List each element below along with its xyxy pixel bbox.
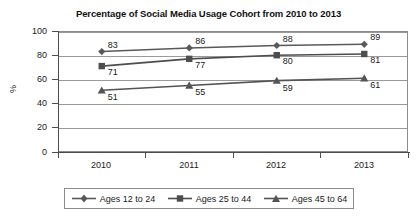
x-tick-4 xyxy=(408,152,409,158)
y-tick-80 xyxy=(52,55,58,56)
data-label: 88 xyxy=(283,34,293,44)
legend-item-ages-25-to-44[interactable]: Ages 25 to 44 xyxy=(167,193,252,204)
x-tick-label-2012: 2012 xyxy=(246,160,306,170)
square-marker-icon xyxy=(167,193,193,204)
y-tick-label-40: 40 xyxy=(7,98,47,108)
y-tick-label-0: 0 xyxy=(7,147,47,157)
data-label: 83 xyxy=(108,40,118,50)
diamond-marker-icon xyxy=(71,193,97,204)
y-tick-40 xyxy=(52,103,58,104)
gridline-60 xyxy=(59,80,407,81)
y-axis-title: % xyxy=(8,85,18,93)
data-label: 51 xyxy=(108,92,118,102)
data-label: 89 xyxy=(370,32,380,42)
gridline-80 xyxy=(59,56,407,57)
data-label: 86 xyxy=(195,36,205,46)
y-axis-line xyxy=(58,31,59,153)
data-label: 71 xyxy=(108,67,118,77)
y-tick-label-100: 100 xyxy=(7,26,47,36)
y-tick-label-60: 60 xyxy=(7,74,47,84)
x-axis-line xyxy=(52,152,410,153)
x-tick-1 xyxy=(145,152,146,158)
data-label: 61 xyxy=(370,80,380,90)
y-tick-100 xyxy=(52,31,58,32)
y-tick-label-80: 80 xyxy=(7,50,47,60)
x-tick-3 xyxy=(320,152,321,158)
x-tick-label-2013: 2013 xyxy=(334,160,394,170)
data-label: 55 xyxy=(195,87,205,97)
y-tick-20 xyxy=(52,127,58,128)
x-tick-label-2011: 2011 xyxy=(159,160,219,170)
gridline-20 xyxy=(59,128,407,129)
data-label: 59 xyxy=(283,83,293,93)
x-tick-2 xyxy=(233,152,234,158)
gridline-100 xyxy=(59,32,407,33)
legend-label-ages-25-to-44: Ages 25 to 44 xyxy=(196,194,252,204)
x-tick-0 xyxy=(58,152,59,158)
triangle-marker-icon xyxy=(263,193,289,204)
legend-label-ages-12-to-24: Ages 12 to 24 xyxy=(100,194,156,204)
chart-container: Percentage of Social Media Usage Cohort … xyxy=(0,0,417,221)
legend-label-ages-45-to-64: Ages 45 to 64 xyxy=(292,194,348,204)
x-tick-label-2010: 2010 xyxy=(71,160,131,170)
data-label: 81 xyxy=(370,55,380,65)
y-tick-60 xyxy=(52,79,58,80)
data-label: 77 xyxy=(195,60,205,70)
data-label: 80 xyxy=(283,56,293,66)
chart-title: Percentage of Social Media Usage Cohort … xyxy=(0,8,417,19)
y-tick-label-20: 20 xyxy=(7,122,47,132)
gridline-40 xyxy=(59,104,407,105)
chart-legend: Ages 12 to 24 Ages 25 to 44 Ages 45 to 6… xyxy=(64,188,354,209)
legend-item-ages-12-to-24[interactable]: Ages 12 to 24 xyxy=(71,193,156,204)
legend-item-ages-45-to-64[interactable]: Ages 45 to 64 xyxy=(263,193,348,204)
